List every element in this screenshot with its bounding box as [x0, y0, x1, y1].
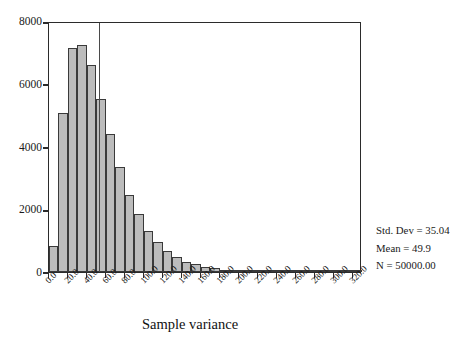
histogram-bar	[77, 45, 86, 272]
vertical-reference-line	[99, 23, 100, 272]
x-axis-title: Sample variance	[0, 316, 380, 332]
histogram-bar	[58, 113, 67, 272]
histogram-bar	[49, 246, 58, 272]
histogram-figure: 8000 6000 4000 2000 0 0.020.040.060.080.…	[0, 0, 463, 343]
y-tick-label-2000: 2000	[19, 204, 42, 216]
histogram-bar	[115, 167, 124, 272]
stat-mean: Mean = 49.9	[376, 240, 463, 258]
histogram-bar	[134, 214, 143, 272]
y-tick-label-0: 0	[36, 267, 42, 279]
histogram-bar	[96, 99, 105, 272]
y-tick-label-8000: 8000	[19, 16, 42, 28]
histogram-bar	[125, 195, 134, 272]
plot-area	[48, 22, 361, 273]
stat-std-dev: Std. Dev = 35.04	[376, 222, 463, 240]
statistics-annotation: Std. Dev = 35.04 Mean = 49.9 N = 50000.0…	[376, 222, 463, 275]
stat-n: N = 50000.00	[376, 257, 463, 275]
y-tick-label-6000: 6000	[19, 79, 42, 91]
histogram-bar	[68, 48, 77, 272]
histogram-bar	[87, 65, 96, 272]
y-tick-label-4000: 4000	[19, 142, 42, 154]
histogram-bars	[49, 23, 360, 272]
histogram-bar	[106, 134, 115, 272]
